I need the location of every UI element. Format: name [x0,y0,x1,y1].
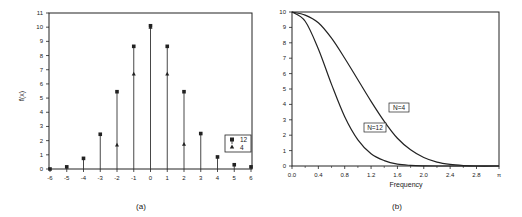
panel-a-stems [48,24,253,171]
y-tick-label: 10 [279,9,286,15]
x-tick-label: 0.0 [288,172,297,178]
square-marker [98,132,102,136]
x-tick-label: 2 [182,175,186,181]
y-tick-label: 0 [40,166,44,172]
x-tick-label: -6 [47,175,53,181]
y-tick-label: 1 [283,148,287,154]
panel-a-x-axis: -6-5-4-3-2-10123456 [47,169,253,181]
y-tick-label: 1 [40,152,44,158]
panel-a-y-axis-title: f(x) [18,91,26,101]
square-marker [249,165,253,169]
x-tick-label: -2 [114,175,120,181]
y-tick-label: 6 [40,81,44,87]
square-marker-icon [230,138,234,142]
square-marker [165,45,169,49]
x-tick-label: 2.0 [420,172,429,178]
y-tick-label: 2 [40,138,44,144]
panel-a-label: (a) [136,202,146,211]
square-marker [48,167,52,171]
panel-b-label: (b) [392,202,402,211]
panel-b-y-axis: 012345678910 [279,9,292,169]
x-tick-label: π [497,172,501,178]
triangle-marker [182,142,186,146]
y-tick-label: 7 [283,55,287,61]
y-tick-label: 4 [40,109,44,115]
y-tick-label: 3 [283,117,287,123]
y-tick-label: 3 [40,123,44,129]
x-tick-label: 1 [166,175,170,181]
panel-b-plot-frame [292,12,499,166]
triangle-marker [132,72,136,76]
panel-a-legend: 12 4 [225,135,251,152]
panel-b-curves [292,12,499,166]
legend-label-4: 4 [240,144,244,151]
square-marker [216,155,220,159]
y-tick-label: 5 [283,86,287,92]
panel-a-stem-chart: 01234567891011 -6-5-4-3-2-10123456 f(x) … [18,10,253,211]
y-tick-label: 5 [40,95,44,101]
y-tick-label: 4 [283,101,287,107]
y-tick-label: 8 [283,40,287,46]
triangle-marker [165,72,169,76]
x-tick-label: 2.8 [472,172,481,178]
svg-text:N=12: N=12 [367,124,383,131]
y-tick-label: 0 [283,163,287,169]
x-tick-label: 1.2 [367,172,376,178]
svg-text:N=4: N=4 [393,104,405,111]
x-tick-label: -3 [98,175,104,181]
figure: 01234567891011 -6-5-4-3-2-10123456 f(x) … [0,0,522,217]
square-marker [199,132,203,136]
x-tick-label: 1.6 [393,172,402,178]
panel-b-x-axis: 0.00.40.81.21.62.02.42.8π [288,166,501,178]
x-tick-label: 3 [199,175,203,181]
x-tick-label: 0 [149,175,153,181]
x-tick-label: -1 [131,175,137,181]
triangle-marker [115,143,119,147]
curve-n12 [292,12,499,166]
y-tick-label: 10 [36,24,43,30]
x-tick-label: 0.4 [314,172,323,178]
square-marker [82,157,86,161]
y-tick-label: 6 [283,71,287,77]
x-tick-label: 6 [249,175,253,181]
square-marker [115,90,119,94]
x-tick-label: 2.4 [446,172,455,178]
y-tick-label: 7 [40,67,44,73]
panel-a-y-axis: 01234567891011 [36,10,49,172]
legend-label-12: 12 [240,136,248,143]
x-tick-label: 0.8 [341,172,350,178]
y-tick-label: 9 [40,38,44,44]
curve-n4 [292,12,499,166]
y-tick-label: 9 [283,24,287,30]
x-tick-label: 4 [216,175,220,181]
square-marker [182,90,186,94]
square-marker [132,45,136,49]
panel-b-line-chart: 012345678910 0.00.40.81.21.62.02.42.8π N… [279,9,501,211]
x-tick-label: -4 [81,175,87,181]
annotation-n12: N=12 [364,123,386,132]
y-tick-label: 8 [40,53,44,59]
x-tick-label: 5 [233,175,237,181]
square-marker [232,163,236,167]
x-tick-label: -5 [64,175,70,181]
annotation-n4: N=4 [389,103,409,112]
panel-b-x-axis-title: Frequency [389,181,423,189]
y-tick-label: 11 [37,10,44,16]
y-tick-label: 2 [283,132,287,138]
square-marker [65,165,69,169]
